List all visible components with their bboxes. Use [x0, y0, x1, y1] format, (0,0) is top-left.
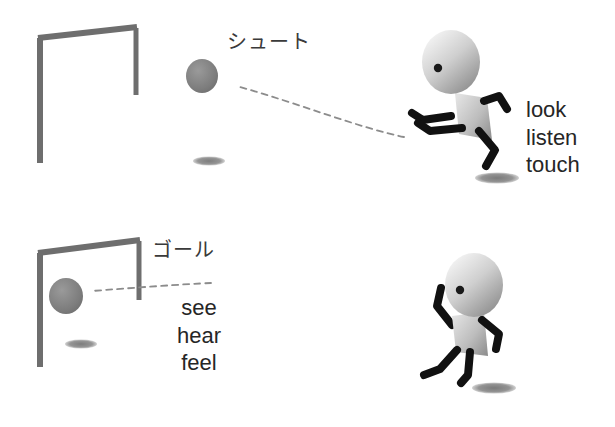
player-kicking [412, 30, 519, 184]
label-shoot-jp: シュート [227, 30, 311, 55]
shot-trajectory-dashed [240, 87, 404, 137]
player-leg-trail-top [418, 123, 462, 131]
player-leg-front-bottom [461, 352, 470, 383]
goal-frame-top [38, 27, 137, 163]
ball-shadow-bottom [65, 340, 97, 349]
player-shadow-bottom [472, 383, 516, 394]
ball-top [186, 59, 218, 93]
player-leg-back-bottom [424, 350, 457, 375]
senses-list-bottom: see hear feel [156, 294, 242, 377]
scene-vector-layer [0, 0, 615, 427]
player-eye-top [434, 64, 442, 72]
player-arm-back-top [412, 113, 451, 120]
label-goal-jp: ゴール [152, 238, 215, 263]
ball-shadow-top [193, 157, 225, 166]
illustration-canvas: シュート ゴール look listen touch see hear feel [0, 0, 615, 427]
bottom-panel-group [38, 240, 516, 394]
player-shadow-top [475, 173, 519, 184]
player-eye-bottom [456, 286, 464, 294]
senses-list-top: look listen touch [526, 96, 580, 179]
player-head-top [422, 30, 480, 94]
player-head-bottom [445, 253, 503, 317]
player-celebrating [424, 253, 516, 394]
goal-trajectory-dashed [92, 283, 211, 291]
ball-bottom [49, 278, 83, 314]
player-leg-kick-top [479, 131, 495, 166]
